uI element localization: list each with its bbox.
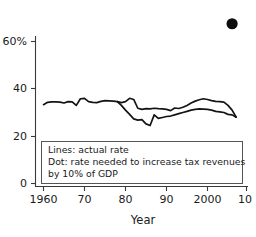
y-tick-label-20: 20 — [13, 130, 27, 143]
y-tick-label-0: 0 — [20, 177, 27, 190]
line-chart: 0 20 40 60% 1960 70 80 90 2000 10 Year — [0, 0, 256, 237]
x-tick-label-1970: 70 — [78, 193, 92, 206]
y-tick-label-40: 40 — [13, 82, 27, 95]
chart-container: 0 20 40 60% 1960 70 80 90 2000 10 Year — [0, 0, 256, 237]
y-tick-label-60: 60% — [3, 35, 27, 48]
x-axis-ticks — [44, 187, 247, 192]
needed-rate-dot — [227, 18, 238, 29]
y-axis-ticks — [31, 42, 36, 184]
legend-entry-dot: Dot: rate needed to increase tax revenue… — [48, 156, 246, 167]
x-tick-label-1980: 80 — [119, 193, 133, 206]
x-tick-label-2000: 2000 — [194, 193, 222, 206]
x-tick-label-1990: 90 — [160, 193, 174, 206]
legend-entry-dot-cont: by 10% of GDP — [48, 168, 118, 179]
x-tick-label-1960: 1960 — [30, 193, 58, 206]
series-line-upper — [44, 98, 237, 117]
series-line-lower — [117, 102, 236, 126]
legend: Lines: actual rate Dot: rate needed to i… — [42, 142, 246, 184]
x-tick-label-2010: 10 — [238, 193, 252, 206]
x-axis-title: Year — [130, 213, 156, 227]
legend-entry-lines: Lines: actual rate — [48, 144, 129, 155]
